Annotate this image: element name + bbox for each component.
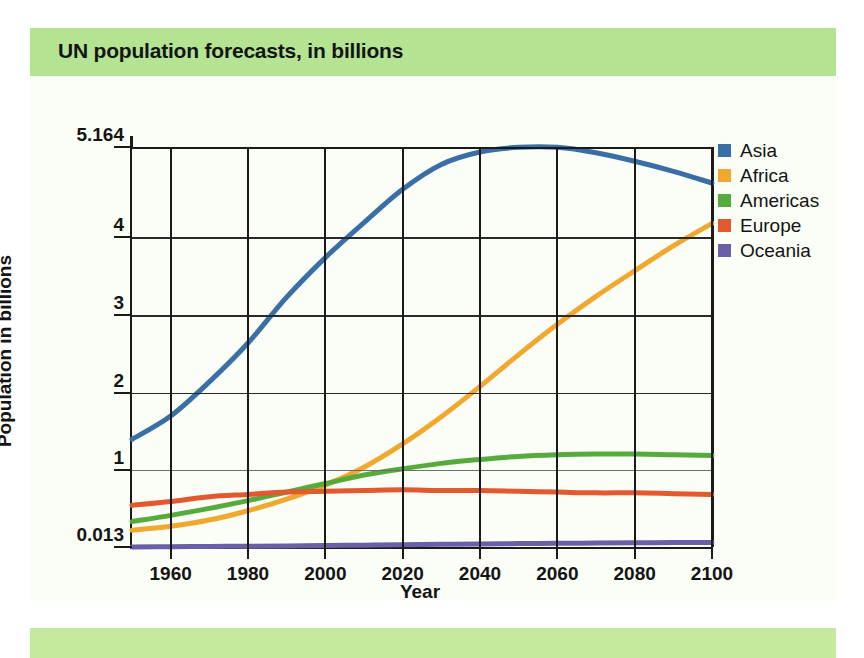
- legend-item-europe[interactable]: Europe: [718, 213, 848, 238]
- legend-item-label: Europe: [740, 215, 801, 237]
- gridline-vertical: [479, 147, 481, 547]
- gridline-vertical: [170, 147, 172, 547]
- y-tick-label: 3: [113, 292, 124, 314]
- plot-area: 0.01312345.16419601980200020202040206020…: [130, 147, 712, 549]
- y-tick-mark: [114, 314, 132, 316]
- y-tick-label: 2: [113, 370, 124, 392]
- legend-item-label: Africa: [740, 165, 789, 187]
- series-line-europe: [132, 490, 712, 506]
- legend-swatch-icon: [718, 169, 731, 182]
- series-line-asia: [132, 147, 712, 440]
- series-layer: [132, 147, 712, 547]
- legend-swatch-icon: [718, 219, 731, 232]
- legend-item-label: Oceania: [740, 240, 811, 262]
- y-tick-mark: [114, 146, 132, 148]
- y-tick-label: 1: [113, 447, 124, 469]
- x-tick-mark: [479, 547, 481, 559]
- legend-item-asia[interactable]: Asia: [718, 138, 848, 163]
- x-axis-title: Year: [130, 581, 710, 603]
- chart-container: Population in billions 0.01312345.164196…: [0, 76, 864, 628]
- gridline-vertical: [402, 147, 404, 547]
- gridline-horizontal: [132, 147, 712, 149]
- x-tick-mark: [556, 547, 558, 559]
- legend-swatch-icon: [718, 194, 731, 207]
- gridline-vertical: [711, 147, 713, 547]
- legend: AsiaAfricaAmericasEuropeOceania: [718, 138, 848, 263]
- gridline-vertical: [556, 147, 558, 547]
- x-tick-mark: [634, 547, 636, 559]
- y-tick-mark: [114, 392, 132, 394]
- legend-item-label: Asia: [740, 140, 777, 162]
- bottom-band: [30, 628, 836, 658]
- legend-item-label: Americas: [740, 190, 819, 212]
- series-line-oceania: [132, 542, 712, 547]
- title-band: UN population forecasts, in billions: [30, 28, 836, 76]
- page-title: UN population forecasts, in billions: [58, 39, 403, 63]
- gridline-vertical: [247, 147, 249, 547]
- y-tick-mark: [114, 236, 132, 238]
- x-tick-mark: [324, 547, 326, 559]
- x-tick-mark: [711, 547, 713, 559]
- gridline-vertical: [324, 147, 326, 547]
- legend-item-americas[interactable]: Americas: [718, 188, 848, 213]
- gridline-horizontal: [132, 470, 712, 471]
- x-tick-mark: [170, 547, 172, 559]
- gridline-horizontal: [132, 315, 712, 317]
- x-tick-mark: [247, 547, 249, 559]
- figure-page: UN population forecasts, in billions Pop…: [0, 0, 864, 658]
- legend-item-oceania[interactable]: Oceania: [718, 238, 848, 263]
- x-tick-mark: [402, 547, 404, 559]
- legend-swatch-icon: [718, 144, 731, 157]
- y-tick-mark: [114, 546, 132, 548]
- gridline-horizontal: [132, 237, 712, 239]
- series-line-africa: [132, 223, 712, 530]
- y-tick-label: 0.013: [76, 524, 124, 546]
- y-tick-mark: [114, 469, 132, 471]
- gridline-vertical: [634, 147, 636, 547]
- y-tick-label: 4: [113, 214, 124, 236]
- legend-swatch-icon: [718, 244, 731, 257]
- legend-item-africa[interactable]: Africa: [718, 163, 848, 188]
- y-axis-title: Population in billions: [0, 236, 16, 466]
- gridline-horizontal: [132, 393, 712, 395]
- y-tick-label: 5.164: [76, 124, 124, 146]
